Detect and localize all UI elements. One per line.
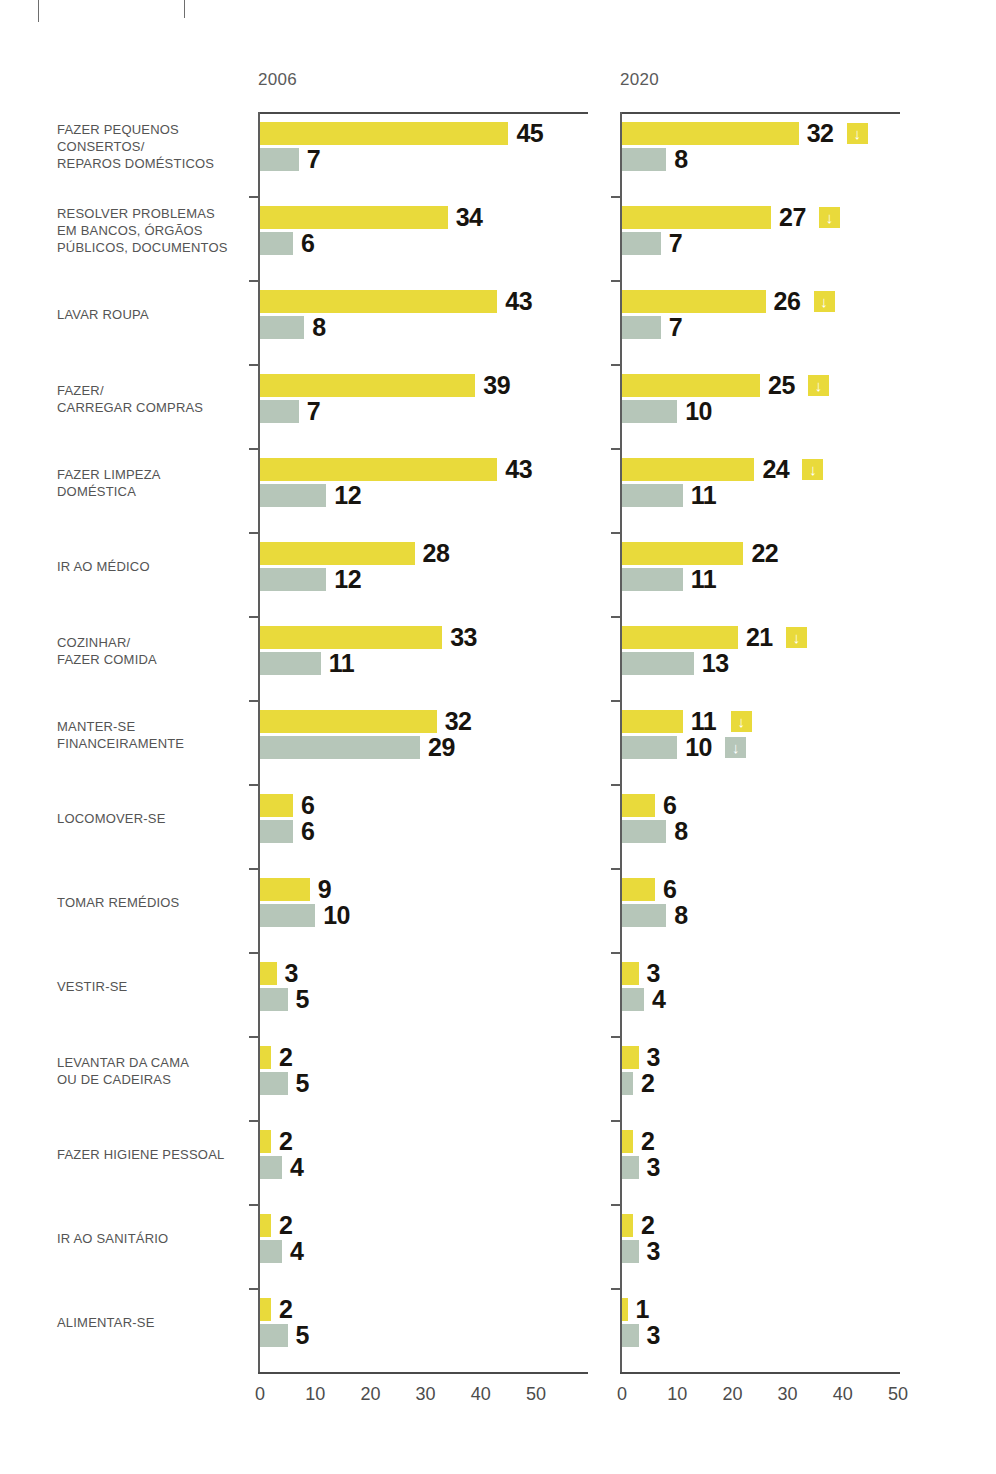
bar-value-label: 1 [636, 1298, 649, 1321]
arrow-down-icon: ↓ [731, 711, 752, 732]
bar-recebe [260, 458, 497, 481]
bar-row: 1 [622, 1298, 748, 1321]
category-label: COZINHAR/FAZER COMIDA [57, 634, 247, 668]
axis-tick-mark [611, 1204, 622, 1206]
category-label-line: LOCOMOVER-SE [57, 810, 247, 827]
category-label-line: LAVAR ROUPA [57, 306, 247, 323]
bar-value-label: 9 [318, 878, 331, 901]
chart-panel-2020: 32↓827↓726↓725↓1024↓11221121↓1311↓10↓686… [620, 112, 900, 1374]
bar-oferece [260, 232, 293, 255]
bar-row: 10 [622, 400, 797, 423]
axis-tick-mark [611, 1036, 622, 1038]
x-axis-tick-label: 20 [712, 1384, 752, 1405]
category-label-line: VESTIR-SE [57, 978, 247, 995]
bar-row: 33 [260, 626, 562, 649]
bar-row: 6 [622, 794, 775, 817]
bar-row: 10 [260, 904, 435, 927]
axis-tick-mark [249, 196, 260, 198]
category-label-line: FAZER HIGIENE PESSOAL [57, 1146, 247, 1163]
bar-value-label: 3 [647, 1156, 660, 1179]
x-axis-tick-label: 40 [461, 1384, 501, 1405]
category-label-line: IR AO MÉDICO [57, 558, 247, 575]
bar-oferece [622, 988, 644, 1011]
bar-row: 3 [622, 1046, 759, 1069]
axis-tick-mark [611, 280, 622, 282]
bar-row: 7 [622, 232, 781, 255]
bar-row: 27↓ [622, 206, 891, 229]
crop-fragment-left [38, 0, 39, 22]
bar-value-label: 45 [516, 122, 543, 145]
x-axis-tick-label: 50 [878, 1384, 918, 1405]
axis-tick-mark [249, 448, 260, 450]
bar-oferece [260, 820, 293, 843]
bar-row: 8 [622, 148, 786, 171]
bar-recebe [622, 878, 655, 901]
bar-oferece [622, 484, 683, 507]
category-label-line: CONSERTOS/ [57, 138, 247, 155]
category-label: MANTER-SEFINANCEIRAMENTE [57, 718, 247, 752]
bar-row: 39 [260, 374, 595, 397]
category-label: LOCOMOVER-SE [57, 810, 247, 827]
bar-value-label: 34 [456, 206, 483, 229]
bar-recebe [260, 290, 497, 313]
bar-oferece [260, 652, 321, 675]
bar-row: 21↓ [622, 626, 858, 649]
bar-value-label: 39 [483, 374, 510, 397]
bar-row: 6 [622, 878, 775, 901]
axis-tick-mark [611, 700, 622, 702]
bar-value-label: 32 [807, 122, 834, 145]
bar-row: 11↓ [622, 710, 803, 733]
bar-recebe [260, 1130, 271, 1153]
bar-oferece [260, 568, 326, 591]
axis-tick-mark [611, 952, 622, 954]
bar-value-label: 26 [774, 290, 801, 313]
category-label: ALIMENTAR-SE [57, 1314, 247, 1331]
bar-row: 34 [260, 206, 568, 229]
bar-row: 3 [622, 1156, 759, 1179]
bar-value-label: 8 [674, 904, 687, 927]
bar-value-label: 4 [290, 1156, 303, 1179]
bar-value-label: 10 [685, 400, 712, 423]
bar-recebe [260, 1298, 271, 1321]
bar-row: 45 [260, 122, 628, 145]
bar-value-label: 12 [334, 484, 361, 507]
bar-value-label: 7 [669, 232, 682, 255]
category-label-line: OU DE CADEIRAS [57, 1071, 247, 1088]
arrow-down-icon: ↓ [786, 627, 807, 648]
category-label: FAZER HIGIENE PESSOAL [57, 1146, 247, 1163]
bar-row: 6 [260, 820, 413, 843]
axis-tick-mark [249, 952, 260, 954]
bar-row: 7 [622, 316, 781, 339]
arrow-down-icon: ↓ [725, 737, 746, 758]
x-axis-tick-label: 0 [602, 1384, 642, 1405]
bar-value-label: 2 [279, 1046, 292, 1069]
x-axis-tick-label: 40 [823, 1384, 863, 1405]
bar-value-label: 3 [647, 962, 660, 985]
bar-oferece [260, 1324, 288, 1347]
bar-recebe [622, 290, 766, 313]
bar-value-label: 13 [702, 652, 729, 675]
bar-row: 4 [622, 988, 764, 1011]
bar-row: 26↓ [622, 290, 886, 313]
panel-title-2006: 2006 [258, 70, 297, 90]
bar-value-label: 6 [301, 232, 314, 255]
bar-value-label: 27 [779, 206, 806, 229]
arrow-down-icon: ↓ [814, 291, 835, 312]
bar-row: 3 [622, 1324, 759, 1347]
bar-row: 8 [260, 316, 424, 339]
bar-value-label: 11 [691, 484, 716, 507]
bar-recebe [260, 710, 437, 733]
bar-value-label: 6 [663, 794, 676, 817]
category-label-line: REPAROS DOMÉSTICOS [57, 155, 247, 172]
bar-oferece [622, 232, 661, 255]
category-label-line: FAZER LIMPEZA [57, 466, 247, 483]
bar-row: 22 [622, 542, 863, 565]
bar-oferece [260, 484, 326, 507]
category-label: LAVAR ROUPA [57, 306, 247, 323]
category-label-line: FINANCEIRAMENTE [57, 735, 247, 752]
bar-row: 2 [260, 1298, 391, 1321]
bar-oferece [622, 316, 661, 339]
bar-value-label: 32 [445, 710, 472, 733]
bar-oferece [260, 1072, 288, 1095]
axis-tick-mark [611, 784, 622, 786]
